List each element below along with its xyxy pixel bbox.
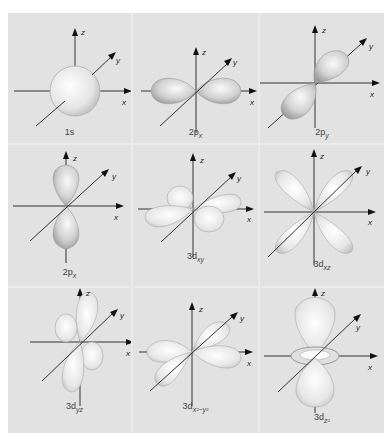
svg-text:z: z	[319, 152, 324, 161]
svg-text:z: z	[85, 289, 90, 298]
z-axis-arrow-icon	[312, 288, 318, 296]
orbital-label: 2py	[260, 127, 384, 139]
y-axis-arrow-icon	[230, 312, 238, 320]
panel-3dyz: z y x 3dyz	[8, 288, 131, 433]
svg-text:x: x	[367, 363, 373, 372]
orbital-label: 3dxy	[133, 251, 258, 263]
orbital-label: 3dxz	[260, 259, 384, 271]
orbital-label: 2px	[133, 127, 258, 139]
x-axis-arrow-icon	[116, 203, 124, 209]
svg-text:y: y	[119, 311, 125, 320]
z-axis-arrow-icon	[189, 302, 195, 310]
x-axis-arrow-icon	[372, 80, 380, 86]
svg-text:x: x	[369, 90, 375, 99]
svg-text:y: y	[355, 323, 361, 332]
panel-2px: z y x 2px	[133, 13, 258, 143]
z-axis-arrow-icon	[72, 28, 78, 36]
x-axis-arrow-icon	[370, 353, 378, 359]
svg-text:x: x	[367, 218, 373, 227]
panel-3dx2y2: z y x 3dx²−y²	[133, 288, 258, 433]
y-axis-arrow-icon	[101, 169, 109, 177]
x-axis-arrow-icon	[245, 349, 253, 355]
panel-3dz2: z y x 3dz²	[260, 288, 384, 433]
orbital-grid: z y x 1s z y x 2px	[8, 13, 384, 433]
orbital-2px-drawing: z y x	[133, 13, 258, 143]
orbital-1s-drawing: z y x	[8, 13, 131, 143]
orbital-label: 3dz²	[260, 412, 384, 424]
svg-text:x: x	[249, 98, 255, 107]
orbital-2py-drawing: z y x	[260, 13, 384, 143]
svg-text:z: z	[198, 305, 203, 314]
z-axis-arrow-icon	[193, 47, 199, 55]
svg-text:y: y	[115, 56, 121, 65]
z-axis-arrow-icon	[312, 25, 318, 33]
orbital-label: 2px	[8, 267, 131, 279]
panel-2pz: z y x 2px	[8, 145, 131, 286]
orbital-3dxy-drawing: z y x	[133, 145, 258, 286]
x-axis-arrow-icon	[249, 88, 257, 94]
svg-text:y: y	[232, 58, 238, 67]
svg-text:z: z	[321, 26, 326, 35]
orbital-label: 3dx²−y²	[133, 401, 258, 413]
svg-text:x: x	[113, 213, 119, 222]
panel-3dxy: z y x 3dxy	[133, 145, 258, 286]
svg-text:y: y	[236, 174, 242, 183]
svg-text:x: x	[246, 215, 252, 224]
svg-text:x: x	[121, 98, 127, 107]
y-axis-arrow-icon	[354, 166, 362, 174]
svg-text:x: x	[246, 359, 252, 368]
svg-text:z: z	[80, 28, 85, 37]
svg-text:y: y	[239, 314, 245, 323]
x-axis-arrow-icon	[124, 88, 131, 94]
z-axis-arrow-icon	[63, 151, 69, 159]
panel-2py: z y x 2py	[260, 13, 384, 143]
x-axis-arrow-icon	[126, 339, 131, 345]
svg-text:y: y	[365, 167, 371, 176]
orbital-label: 1s	[8, 127, 131, 137]
panel-1s: z y x 1s	[8, 13, 131, 143]
y-axis-arrow-icon	[353, 314, 361, 322]
z-axis-arrow-icon	[311, 149, 317, 157]
x-axis-arrow-icon	[368, 209, 376, 215]
svg-text:z: z	[72, 154, 77, 163]
panel-3dxz: z y x 3dxz	[260, 145, 384, 286]
x-axis-arrow-icon	[246, 206, 254, 212]
svg-text:z: z	[320, 289, 325, 298]
y-axis-arrow-icon	[110, 309, 118, 317]
svg-text:z: z	[201, 48, 206, 57]
z-axis-arrow-icon	[190, 153, 196, 161]
svg-text:y: y	[111, 172, 117, 181]
orbital-label: 3dyz	[8, 401, 131, 413]
svg-text:z: z	[199, 156, 204, 165]
svg-text:x: x	[125, 349, 131, 358]
orbital-2pz-drawing: z y x	[8, 145, 131, 286]
y-axis-arrow-icon	[224, 58, 232, 66]
svg-text:y: y	[368, 42, 374, 51]
